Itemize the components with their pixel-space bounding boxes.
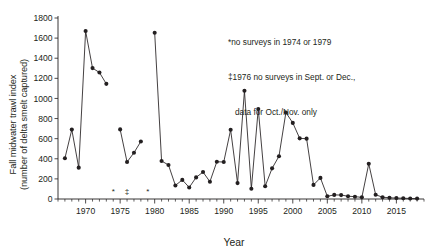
data-point	[166, 163, 170, 167]
data-point	[284, 110, 288, 114]
data-point	[125, 160, 129, 164]
y-tick-label: 1600	[33, 33, 52, 43]
data-point	[318, 176, 322, 180]
data-point	[387, 196, 391, 200]
x-tick-label: 2000	[283, 206, 302, 216]
x-tick-label: 1980	[145, 206, 164, 216]
y-tick-label: 1800	[33, 13, 52, 23]
data-point	[332, 193, 336, 197]
data-point	[104, 82, 108, 86]
data-point	[180, 178, 184, 182]
x-tick-label: 2005	[318, 206, 337, 216]
y-tick-label: 1400	[33, 53, 52, 63]
missing-data-marker: *	[146, 187, 149, 196]
y-tick-label: 0	[48, 194, 53, 204]
data-point	[374, 193, 378, 197]
data-point	[77, 166, 81, 170]
data-point	[415, 197, 419, 201]
y-tick-label: 1000	[33, 94, 52, 104]
data-point	[160, 159, 164, 163]
data-point	[353, 195, 357, 199]
data-point	[346, 194, 350, 198]
data-point	[381, 195, 385, 199]
data-point	[394, 196, 398, 200]
missing-data-marker: ‡	[125, 187, 129, 196]
data-point	[229, 128, 233, 132]
data-line-segment	[120, 129, 141, 162]
x-tick-label: 1970	[76, 206, 95, 216]
y-tick-label: 800	[38, 114, 53, 124]
chart-figure: Fall midwater trawl index (number of del…	[0, 0, 428, 249]
data-point	[153, 31, 157, 35]
data-point	[118, 127, 122, 131]
data-point	[277, 154, 281, 158]
data-point	[201, 170, 205, 174]
y-tick-label: 1200	[33, 73, 52, 83]
data-point	[339, 193, 343, 197]
data-point	[256, 107, 260, 111]
data-point	[90, 66, 94, 70]
data-point	[291, 121, 295, 125]
x-tick-label: 1995	[249, 206, 268, 216]
data-point	[208, 180, 212, 184]
data-point	[215, 160, 219, 164]
y-tick-label: 400	[38, 154, 53, 164]
data-point	[70, 128, 74, 132]
data-point	[263, 184, 267, 188]
data-point	[132, 151, 136, 155]
data-point	[63, 156, 67, 160]
data-point	[270, 166, 274, 170]
plot-area: 0200400600800100012001400160018001970197…	[0, 0, 428, 249]
data-point	[84, 29, 88, 33]
x-tick-label: 2015	[387, 206, 406, 216]
data-line-segment	[155, 33, 417, 199]
data-point	[97, 70, 101, 74]
data-point	[187, 185, 191, 189]
missing-data-marker: *	[112, 187, 115, 196]
data-point	[360, 195, 364, 199]
data-point	[298, 136, 302, 140]
data-point	[139, 139, 143, 143]
x-axis-label-wrap: Year	[0, 237, 428, 248]
x-axis-label: Year	[184, 237, 245, 248]
data-point	[311, 183, 315, 187]
data-point	[401, 196, 405, 200]
data-point	[249, 187, 253, 191]
data-line-segment	[65, 31, 106, 168]
y-tick-label: 600	[38, 134, 53, 144]
x-tick-label: 1985	[180, 206, 199, 216]
x-tick-label: 1975	[111, 206, 130, 216]
x-tick-label: 2010	[352, 206, 371, 216]
y-tick-label: 200	[38, 174, 53, 184]
data-point	[325, 194, 329, 198]
data-point	[222, 160, 226, 164]
data-point	[242, 89, 246, 93]
data-point	[305, 137, 309, 141]
data-point	[194, 175, 198, 179]
x-tick-label: 1990	[214, 206, 233, 216]
data-point	[408, 196, 412, 200]
data-point	[173, 183, 177, 187]
data-point	[367, 162, 371, 166]
data-point	[236, 181, 240, 185]
